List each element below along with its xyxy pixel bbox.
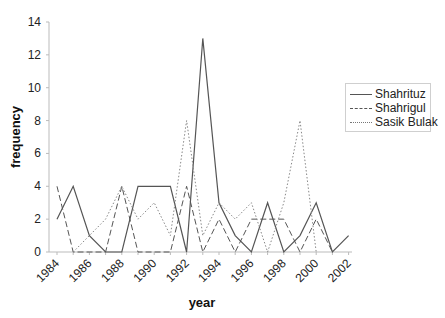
legend-label: Sasik Bulak: [375, 115, 438, 129]
legend-item-sasik-bulak: Sasik Bulak: [350, 115, 438, 129]
solid-line-swatch-icon: [350, 94, 372, 95]
y-tick-label: 6: [34, 146, 41, 160]
dashed-line-swatch-icon: [350, 108, 372, 109]
legend-label: Shahrigul: [375, 101, 426, 115]
y-tick-label: 4: [34, 179, 41, 193]
x-tick-label: 1988: [98, 256, 127, 285]
y-tick-label: 10: [28, 81, 42, 95]
y-tick-label: 0: [34, 245, 41, 259]
x-tick-label: 1998: [260, 256, 289, 285]
x-tick-label: 1994: [195, 256, 224, 285]
x-axis: 1984198619881990199219941996199820002002: [33, 252, 354, 285]
y-tick-label: 12: [28, 48, 42, 62]
x-tick-label: 1984: [33, 256, 62, 285]
x-tick-label: 1986: [66, 256, 95, 285]
y-tick-label: 8: [34, 114, 41, 128]
series-layer: [57, 38, 349, 252]
y-tick-label: 14: [28, 15, 42, 29]
legend-label: Shahrituz: [375, 87, 426, 101]
y-axis-title: frequency: [8, 105, 23, 168]
line-chart: 02468101214 1984198619881990199219941996…: [0, 0, 445, 318]
y-axis: 02468101214: [28, 15, 49, 259]
x-tick-label: 2002: [325, 256, 354, 285]
x-axis-title: year: [189, 295, 216, 310]
legend-item-shahrigul: Shahrigul: [350, 101, 426, 115]
legend: Shahrituz Shahrigul Sasik Bulak: [345, 83, 431, 132]
dotted-line-swatch-icon: [350, 122, 372, 123]
x-tick-label: 1992: [163, 256, 192, 285]
x-tick-label: 2000: [293, 256, 322, 285]
series-line-shahrigul: [57, 186, 332, 252]
legend-item-shahrituz: Shahrituz: [350, 87, 426, 101]
y-tick-label: 2: [34, 212, 41, 226]
x-tick-label: 1990: [131, 256, 160, 285]
x-tick-label: 1996: [228, 256, 257, 285]
series-line-shahrituz: [57, 38, 349, 252]
